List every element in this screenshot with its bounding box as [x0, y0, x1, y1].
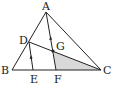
parallel-arrow-af-icon — [49, 36, 52, 40]
label-g: G — [56, 40, 65, 53]
label-e: E — [30, 73, 38, 86]
label-f: F — [54, 73, 62, 86]
label-d: D — [19, 34, 28, 47]
segment-ab — [12, 12, 46, 70]
label-b: B — [1, 64, 9, 77]
point-g-dot — [51, 49, 54, 52]
parallel-arrow-de-icon — [30, 55, 33, 59]
triangle-diagram: A B C D E F G — [0, 0, 117, 95]
label-a: A — [41, 0, 51, 13]
label-c: C — [103, 64, 111, 77]
